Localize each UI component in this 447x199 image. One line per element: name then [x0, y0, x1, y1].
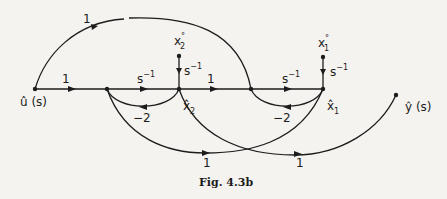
x1-init-node — [321, 55, 325, 59]
signal-flow-graph: û (s) x̂2 x̂1 x°2 x°1 ŷ (s) 1 1 s−1 s−1 … — [0, 0, 447, 199]
feedback1-gain: −2 — [133, 111, 151, 125]
mid-gain: 1 — [207, 72, 215, 86]
top-arc-gain: 1 — [83, 12, 91, 26]
output-node — [394, 93, 398, 97]
x2-hat-label: x̂2 — [183, 99, 195, 116]
top-arc-left — [35, 19, 124, 89]
lower-arc2-gain: 1 — [296, 156, 304, 170]
x1-init-gain: s−1 — [330, 63, 348, 79]
feedback2-arrow-icon — [283, 104, 291, 110]
feedback1-arc — [107, 89, 179, 106]
lower-arc1-gain: 1 — [203, 156, 211, 170]
figure-caption: Fig. 4.3b — [199, 176, 253, 189]
x2-init-gain: s−1 — [184, 62, 202, 78]
x2-hat-node — [177, 87, 181, 91]
x1-hat-node — [321, 87, 325, 91]
feedback2-gain: −2 — [273, 111, 291, 125]
integrator1-gain: s−1 — [137, 70, 155, 86]
input-arrow-icon — [68, 86, 76, 92]
feedback2-arc — [251, 89, 323, 106]
x1-init-label: x°1 — [318, 34, 329, 53]
x2-init-arrow-icon — [176, 68, 182, 74]
feedback1-arrow-icon — [139, 104, 147, 110]
output-label: ŷ (s) — [405, 100, 432, 114]
input-node — [33, 87, 37, 91]
integrator2-arrow-icon — [284, 86, 292, 92]
integrator1-arrow-icon — [140, 86, 148, 92]
mid-arrow-icon — [210, 86, 218, 92]
branch-node-1 — [105, 87, 109, 91]
x2-init-node — [177, 54, 181, 58]
input-gain: 1 — [62, 72, 70, 86]
input-label: û (s) — [20, 95, 47, 109]
x1-hat-label: x̂1 — [327, 99, 339, 116]
branch-node-3 — [249, 87, 253, 91]
integrator2-gain: s−1 — [282, 70, 300, 86]
x2-init-label: x°2 — [174, 32, 185, 51]
x1-init-arrow-icon — [320, 69, 326, 75]
